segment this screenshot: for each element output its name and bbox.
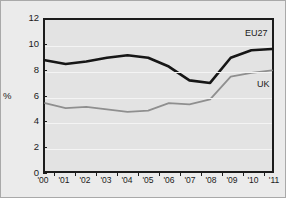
y-tick-label: 10 bbox=[17, 39, 39, 49]
y-tick-mark bbox=[43, 18, 47, 19]
gridline bbox=[45, 72, 272, 73]
y-axis-tick-labels: 024681012 bbox=[13, 1, 39, 198]
x-tick-mark bbox=[96, 172, 97, 176]
series-label-uk: UK bbox=[257, 80, 270, 89]
x-tick-mark bbox=[264, 172, 265, 176]
y-tick-mark bbox=[43, 121, 47, 122]
gridline bbox=[45, 123, 272, 124]
x-tick-mark bbox=[159, 172, 160, 176]
gridline bbox=[45, 46, 272, 47]
series-label-eu27: EU27 bbox=[245, 29, 268, 38]
series-line-eu27 bbox=[45, 49, 272, 83]
x-tick-mark bbox=[201, 172, 202, 176]
plot-area bbox=[43, 18, 274, 173]
chart-figure: % 024681012 '00'01'02'03'04'05'06'07'08'… bbox=[0, 0, 286, 198]
x-tick-label: '11 bbox=[262, 176, 286, 185]
y-tick-label: 12 bbox=[17, 13, 39, 23]
y-tick-mark bbox=[43, 70, 47, 71]
y-tick-mark bbox=[43, 173, 47, 174]
x-tick-mark bbox=[180, 172, 181, 176]
x-tick-mark bbox=[243, 172, 244, 176]
x-tick-mark bbox=[138, 172, 139, 176]
x-tick-mark bbox=[117, 172, 118, 176]
y-tick-label: 2 bbox=[17, 142, 39, 152]
series-line-uk bbox=[45, 70, 272, 112]
y-tick-mark bbox=[43, 44, 47, 45]
gridline bbox=[45, 149, 272, 150]
y-tick-label: 4 bbox=[17, 116, 39, 126]
x-tick-mark bbox=[54, 172, 55, 176]
y-tick-mark bbox=[43, 147, 47, 148]
y-axis-title: % bbox=[3, 91, 11, 101]
y-tick-label: 8 bbox=[17, 65, 39, 75]
x-axis-tick-labels: '00'01'02'03'04'05'06'07'08'09'10'11 bbox=[43, 176, 274, 194]
gridline bbox=[45, 98, 272, 99]
x-tick-mark bbox=[222, 172, 223, 176]
y-tick-label: 6 bbox=[17, 91, 39, 101]
x-tick-mark bbox=[75, 172, 76, 176]
y-tick-mark bbox=[43, 96, 47, 97]
